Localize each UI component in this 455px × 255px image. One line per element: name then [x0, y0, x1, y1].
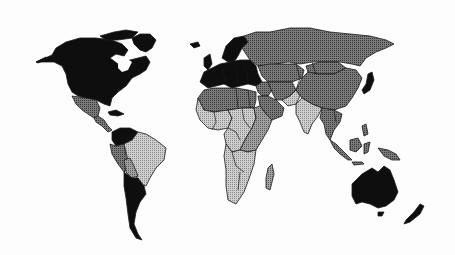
- region-madagascar: [266, 164, 274, 190]
- region-north-america: [36, 38, 150, 106]
- region-new-zealand: [404, 204, 424, 224]
- region-iceland: [190, 42, 200, 48]
- region-uk-ireland: [204, 54, 212, 70]
- region-sulawesi: [364, 142, 370, 154]
- region-java: [352, 162, 364, 165]
- region-caribbean: [108, 110, 124, 116]
- region-philippines: [362, 124, 368, 136]
- region-australia: [352, 166, 398, 208]
- region-russia: [242, 28, 394, 66]
- region-borneo: [350, 138, 362, 152]
- region-japan: [362, 72, 374, 94]
- region-sumatra: [330, 140, 352, 160]
- map-canvas: [0, 0, 455, 255]
- region-tasmania: [378, 212, 384, 216]
- region-central-america: [94, 116, 112, 132]
- region-greenland: [132, 34, 156, 52]
- region-new-guinea: [378, 148, 400, 160]
- world-map: [0, 0, 455, 255]
- region-southeast-asia: [320, 108, 342, 140]
